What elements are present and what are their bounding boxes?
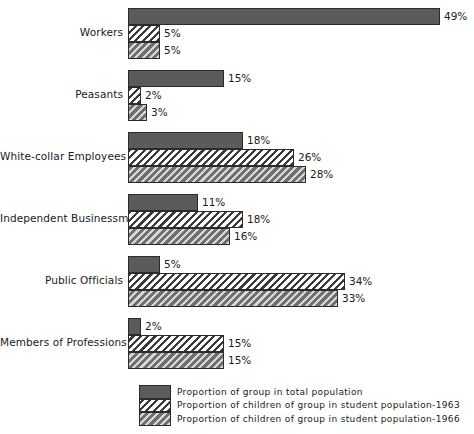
bar-value-label: 26% — [298, 150, 321, 165]
bar-value-label: 5% — [164, 26, 181, 41]
bar-value-label: 16% — [234, 229, 257, 244]
bar-value-label: 2% — [145, 319, 162, 334]
bar-hatch63[interactable] — [128, 25, 160, 42]
bar-hatch63[interactable] — [128, 87, 141, 104]
legend-swatch-solid — [139, 385, 171, 399]
bar-value-label: 15% — [228, 353, 251, 368]
category-label: Workers — [0, 26, 123, 38]
legend-label: Proportion of group in total population — [177, 386, 363, 399]
bar-hatch66[interactable] — [128, 290, 338, 307]
bar-value-label: 34% — [349, 274, 372, 289]
bar-solid[interactable] — [128, 256, 160, 273]
bar-solid[interactable] — [128, 132, 243, 149]
category-label: Independent Businessmen — [0, 212, 123, 224]
bar-value-label: 15% — [228, 336, 251, 351]
category-label: Members of Professions — [0, 336, 123, 348]
bar-value-label: 2% — [145, 88, 162, 103]
legend-item[interactable]: Proportion of group in total population — [139, 385, 459, 399]
category-label: White-collar Employees — [0, 150, 123, 162]
bar-hatch66[interactable] — [128, 104, 147, 121]
bar-value-label: 5% — [164, 43, 181, 58]
bar-value-label: 18% — [247, 133, 270, 148]
bar-solid[interactable] — [128, 70, 224, 87]
bar-value-label: 33% — [342, 291, 365, 306]
legend-label: Proportion of children of group in stude… — [177, 413, 460, 426]
legend-label: Proportion of children of group in stude… — [177, 399, 460, 412]
bar-value-label: 18% — [247, 212, 270, 227]
category-label: Peasants — [0, 88, 123, 100]
bar-solid[interactable] — [128, 8, 440, 25]
bar-hatch66[interactable] — [128, 352, 224, 369]
legend-item[interactable]: Proportion of children of group in stude… — [139, 412, 459, 426]
bar-hatch66[interactable] — [128, 166, 306, 183]
bar-value-label: 11% — [202, 195, 225, 210]
bar-hatch63[interactable] — [128, 211, 243, 228]
legend-item[interactable]: Proportion of children of group in stude… — [139, 399, 459, 413]
bar-value-label: 15% — [228, 71, 251, 86]
chart-legend: Proportion of group in total populationP… — [139, 385, 459, 426]
legend-swatch-hatch66 — [139, 412, 171, 426]
bar-chart: Workers49%5%5%Peasants15%2%3%White-colla… — [0, 0, 474, 434]
bar-hatch63[interactable] — [128, 335, 224, 352]
bar-value-label: 3% — [151, 105, 168, 120]
bar-value-label: 49% — [444, 9, 467, 24]
bar-hatch63[interactable] — [128, 149, 294, 166]
bar-solid[interactable] — [128, 318, 141, 335]
bar-value-label: 28% — [310, 167, 333, 182]
category-label: Public Officials — [0, 274, 123, 286]
bar-solid[interactable] — [128, 194, 198, 211]
legend-swatch-hatch63 — [139, 399, 171, 413]
bar-hatch66[interactable] — [128, 42, 160, 59]
bar-value-label: 5% — [164, 257, 181, 272]
bar-hatch66[interactable] — [128, 228, 230, 245]
bar-hatch63[interactable] — [128, 273, 345, 290]
